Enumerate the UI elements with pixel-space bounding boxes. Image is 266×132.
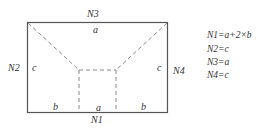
edge-label-top-a: a xyxy=(93,25,98,35)
edge-label-right-c: c xyxy=(157,63,161,73)
dashed-partition-lines xyxy=(28,23,167,112)
edge-label-bottom-left-b: b xyxy=(53,102,58,112)
equation-n3: N3=a xyxy=(207,58,229,68)
edge-label-left-c: c xyxy=(32,63,36,73)
equation-n1: N1=a+2×b xyxy=(207,31,252,41)
outer-rectangle xyxy=(28,23,168,113)
node-label-left: N2 xyxy=(8,63,20,73)
edge-label-bottom-center-a: a xyxy=(96,103,101,113)
node-label-top: N3 xyxy=(87,9,99,19)
node-label-right: N4 xyxy=(173,66,185,76)
node-label-bottom: N1 xyxy=(91,115,103,125)
equation-n4: N4=c xyxy=(207,71,229,81)
equation-n2: N2=c xyxy=(207,45,229,55)
edge-label-bottom-right-b: b xyxy=(141,102,146,112)
